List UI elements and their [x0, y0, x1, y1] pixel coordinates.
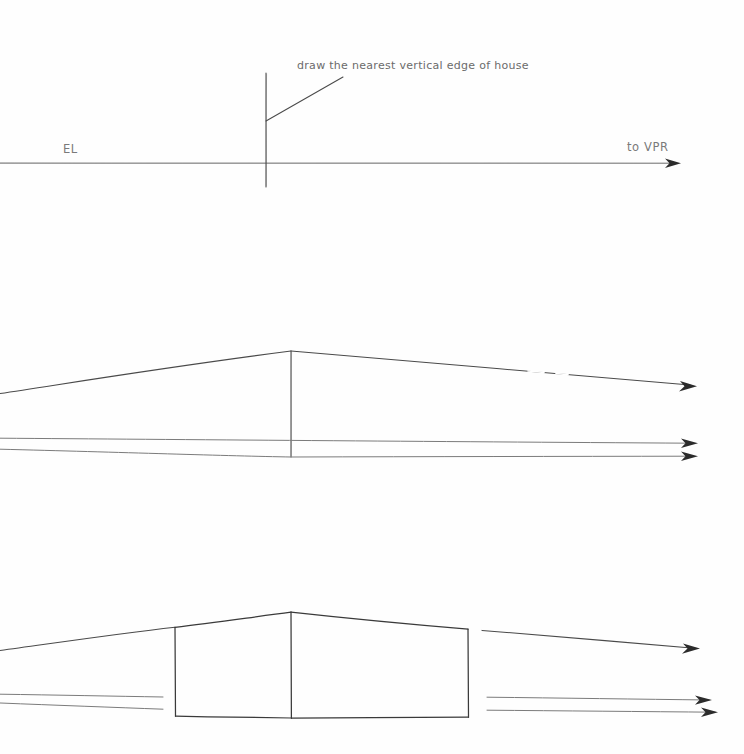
bottom-guide-base-right-upper	[487, 697, 709, 700]
house-left-top-edge	[175, 612, 291, 627]
callout-leader-line	[266, 77, 343, 121]
middle-roofline-right-skip	[528, 371, 544, 372]
panel-bottom-house	[0, 612, 718, 718]
nearest-edge-annotation: draw the nearest vertical edge of house	[297, 59, 529, 72]
bottom-guide-base-left-lower	[0, 703, 163, 709]
middle-roofline-right-skip-2	[556, 374, 568, 375]
to-vpr-label: to VPR	[627, 140, 669, 154]
drawing-sheet: draw the nearest vertical edge of house …	[0, 0, 744, 754]
house-right-vertical-edge	[468, 629, 469, 717]
house-right-top-edge	[291, 612, 468, 629]
middle-baseline-lower	[0, 449, 690, 457]
eye-level-label: EL	[63, 142, 78, 156]
panel-top-eye-level: draw the nearest vertical edge of house …	[0, 59, 681, 187]
bottom-guide-base-left-upper	[0, 694, 163, 697]
middle-roofline-left	[0, 351, 291, 394]
bottom-guide-roofline-right	[482, 630, 697, 648]
bottom-roofline-right-arrowhead-icon	[682, 643, 700, 653]
house-left-bottom-edge	[176, 716, 292, 718]
house-left-vertical-edge	[175, 627, 176, 716]
bottom-guide-roofline-left	[0, 627, 175, 650]
middle-roofline-right-arrowhead-icon	[679, 381, 697, 392]
middle-baseline-upper	[0, 438, 690, 443]
middle-roofline-right	[291, 351, 690, 385]
house-right-bottom-edge	[291, 717, 468, 718]
bottom-guide-base-right-lower	[487, 710, 715, 712]
panel-middle-convergence	[0, 351, 698, 461]
perspective-construction-drawing: draw the nearest vertical edge of house …	[0, 0, 744, 754]
